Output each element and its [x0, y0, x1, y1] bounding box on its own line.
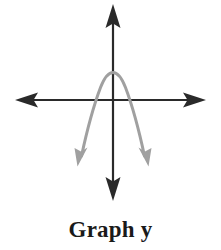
coordinate-plane-plot — [0, 0, 221, 250]
figure-caption: Graph y — [0, 217, 221, 243]
parabola-right-arrow-icon — [139, 148, 152, 167]
parabola-left-arrow-icon — [75, 148, 88, 167]
graph-figure: Graph y — [0, 0, 221, 250]
